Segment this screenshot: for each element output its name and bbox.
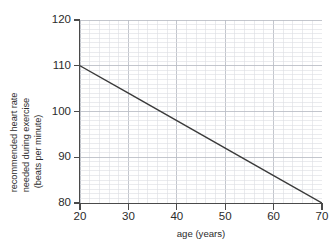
x-tick-label-70: 70 bbox=[307, 211, 336, 225]
y-axis-title-line-1: recommended heart rate bbox=[10, 92, 19, 192]
x-tick-mark-60 bbox=[273, 204, 274, 210]
y-tick-label-text: 80 bbox=[40, 197, 71, 209]
y-axis-title-line-2: needed during exercise bbox=[22, 98, 31, 192]
y-tick-label-text: 120 bbox=[40, 14, 71, 26]
y-tick-mark-90 bbox=[74, 157, 80, 158]
x-tick-label-text: 20 bbox=[65, 211, 95, 223]
x-tick-mark-50 bbox=[225, 204, 226, 210]
y-tick-label-text: 100 bbox=[40, 106, 71, 118]
x-tick-label-20: 20 bbox=[65, 211, 95, 225]
x-axis-line bbox=[79, 203, 323, 204]
y-tick-label-120: 120 bbox=[40, 14, 71, 26]
x-tick-mark-70 bbox=[321, 204, 322, 210]
x-tick-label-text: 30 bbox=[113, 211, 143, 223]
heart-rate-vs-age-chart: recommended heart rate needed during exe… bbox=[0, 0, 336, 249]
x-tick-label-30: 30 bbox=[113, 211, 143, 225]
x-axis-title: age (years) bbox=[80, 228, 322, 239]
y-tick-mark-120 bbox=[74, 19, 80, 20]
y-tick-label-text: 90 bbox=[40, 151, 71, 163]
y-tick-label-80: 80 bbox=[40, 197, 71, 209]
x-tick-mark-30 bbox=[128, 204, 129, 210]
x-tick-mark-40 bbox=[176, 204, 177, 210]
data-series-layer bbox=[80, 20, 322, 203]
x-tick-label-40: 40 bbox=[162, 211, 192, 225]
plot-area bbox=[80, 20, 322, 203]
y-tick-label-110: 110 bbox=[40, 60, 71, 72]
y-tick-mark-100 bbox=[74, 111, 80, 112]
y-tick-label-100: 100 bbox=[40, 106, 71, 118]
y-tick-label-text: 110 bbox=[40, 60, 71, 72]
x-tick-label-text: 60 bbox=[259, 211, 289, 223]
x-tick-label-50: 50 bbox=[210, 211, 240, 225]
x-tick-label-60: 60 bbox=[259, 211, 289, 225]
x-tick-label-text: 50 bbox=[210, 211, 240, 223]
x-tick-label-text: 70 bbox=[307, 211, 336, 223]
y-tick-label-90: 90 bbox=[40, 151, 71, 163]
data-line-0 bbox=[80, 66, 322, 203]
x-tick-label-text: 40 bbox=[162, 211, 192, 223]
y-tick-mark-110 bbox=[74, 65, 80, 66]
x-tick-mark-20 bbox=[79, 204, 80, 210]
